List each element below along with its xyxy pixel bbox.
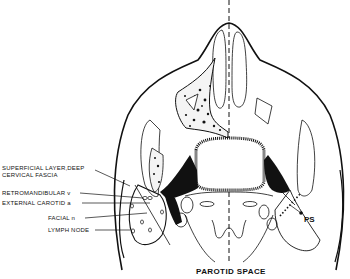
left-outer-skin <box>120 180 125 258</box>
longus-muscle-right <box>243 202 257 207</box>
parotid-space-diagram <box>0 0 350 279</box>
longus-muscle-left <box>200 202 214 207</box>
right-outer-skin <box>335 170 343 262</box>
left-parotid-gland <box>129 185 166 245</box>
label-ps: PS <box>304 215 315 224</box>
right-mandible-region <box>297 120 315 196</box>
label-superficial-layer-line2: CERVICAL FASCIA <box>2 172 58 178</box>
left-parapharyngeal-extension <box>165 196 182 225</box>
ps-pointer <box>290 205 301 213</box>
left-maxilla-bone <box>176 58 228 138</box>
left-nasal-cavity <box>213 30 226 108</box>
left-mandible-bone <box>149 148 163 192</box>
left-carotid-sheath-upper <box>181 197 193 213</box>
label-facial-nerve: FACIAL n <box>48 215 75 221</box>
parotid-small-ovals <box>131 196 164 233</box>
left-parapharyngeal-space <box>160 155 198 200</box>
right-carotid-sheath-upper <box>259 205 269 219</box>
label-external-carotid-artery: EXTERNAL CAROTID a <box>2 200 71 206</box>
right-nasal-cavity <box>232 32 247 107</box>
maxillary-sinus-right <box>255 98 272 124</box>
posterior-contour <box>185 215 273 262</box>
label-retromandibular-vein: RETROMANDIBULAR v <box>2 190 70 196</box>
leader-superficial-layer <box>95 170 130 186</box>
leader-facial <box>85 213 147 218</box>
nasopharynx <box>196 138 264 190</box>
diagram-title: PAROTID SPACE <box>196 267 266 276</box>
label-lymph-node: LYMPH NODE <box>48 227 89 233</box>
label-superficial-layer-line1: SUPERFICIAL LAYER,DEEP <box>2 165 84 171</box>
